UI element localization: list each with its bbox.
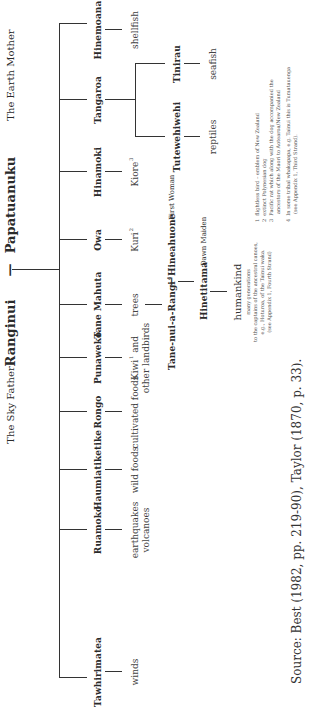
humankind-label: humankind: [233, 264, 243, 321]
domain-winds: winds: [130, 659, 140, 686]
domain-kuri: Kuri2: [130, 228, 140, 252]
branch-line: [59, 239, 87, 240]
domain-link-line: [105, 304, 122, 305]
domain-earthquakes: earthquakes: [130, 502, 140, 559]
domain-wild-foods: wild foods: [130, 447, 140, 494]
domain-kiore: Kiore3: [130, 158, 140, 187]
branch-line: [59, 304, 87, 305]
humankind-drop-line: [210, 291, 227, 292]
children-spine-line: [59, 23, 60, 678]
earth-mother-epithet: The Earth Mother: [6, 29, 16, 120]
branch-line: [59, 99, 87, 100]
domain-volcanoes: volcanoes: [141, 508, 151, 553]
child-punaweko: Punaweko: [94, 332, 103, 384]
tane-nui-a-rangi-label: Tane-nui-a-Rangi4: [168, 277, 177, 370]
source-citation: Source: Best (1982, pp. 219-90), Taylor …: [291, 359, 303, 684]
domain-link-line: [105, 469, 122, 470]
domain-link-line: [105, 529, 122, 530]
tinirau-branch-line: [135, 63, 165, 64]
child-rongo: Rongo: [94, 396, 103, 429]
footnote-4: 4 In some tribal whakapapa, e.g. Tainui …: [285, 67, 292, 222]
tane-union-connector: —: [167, 277, 176, 286]
tutewehiwehi-branch-line: [135, 136, 165, 137]
footnote-3: 3 Pacific rat which along with the dog a…: [268, 79, 275, 222]
descendants-line-3: e.g., Hoturoa, of the Tainui waka.: [259, 250, 265, 335]
tangaroa-drop-line: [105, 99, 135, 100]
domain-seafish: seafish: [208, 48, 218, 80]
branch-line: [59, 469, 87, 470]
domain-link-line: [105, 357, 122, 358]
domain-link-line: [105, 29, 122, 30]
sky-father-epithet: The Sky Father: [6, 366, 16, 443]
dawn-maiden-epithet: Dawn Maiden: [201, 217, 208, 266]
domain-other-landbirds: other landbirds: [141, 323, 151, 393]
parents-connector: —: [3, 264, 16, 277]
child-owa: Owa: [94, 229, 103, 251]
footnote-1: 1 flightless bird – emblem of New Zealan…: [254, 113, 261, 222]
domain-trees: trees: [130, 293, 140, 316]
child-tane-mahuta: Tane Mahuta: [94, 271, 103, 338]
domain-cultivated-foods: cultivated foods: [130, 376, 140, 449]
child-haumiatiketike: Haumiatiketike: [94, 430, 103, 510]
domain-link-line: [184, 136, 200, 137]
hinetitama-label: Hinetitama: [200, 262, 209, 320]
branch-line: [59, 677, 87, 678]
tangaroa-bracket-line: [135, 64, 136, 137]
first-woman-epithet: First Woman: [169, 175, 176, 220]
descendants-line-1: many generations: [245, 269, 251, 314]
domain-link-line: [105, 239, 122, 240]
domain-shellfish: shellfish: [130, 11, 140, 49]
domain-reptiles: reptiles: [208, 120, 218, 155]
branch-line: [59, 529, 87, 530]
child-ruamoko: Ruamoko: [94, 506, 103, 554]
footnote-3-cont: ancestors of the Maori to Aotearoa/New Z…: [275, 90, 282, 214]
domain-link-line: [105, 671, 122, 672]
union-drop-line: [12, 269, 60, 270]
domain-link-line: [105, 411, 122, 412]
ranginui-label: Ranginui: [4, 300, 17, 367]
branch-line: [59, 357, 87, 358]
descendants-line-2: to the captains of the ancestral canoes,: [252, 242, 258, 342]
domain-link-line: [184, 63, 200, 64]
child-tutewehiwehi: Tutewehiwehi: [173, 102, 182, 172]
footnote-4-cont: (see Appendix 1, Third Strand).: [292, 134, 299, 214]
hinetitama-drop-line: [178, 281, 194, 282]
domain-kiwi: Kiwi1 and: [130, 336, 140, 380]
child-tinirau: Tinirau: [173, 45, 182, 83]
branch-line: [59, 171, 87, 172]
branch-line: [59, 23, 87, 24]
child-hinemoana: Hinemoana: [94, 1, 103, 60]
tane-descent-line: [145, 304, 162, 305]
papatuanuku-label: Papatuanuku: [4, 157, 17, 254]
descendants-line-4: (see Appendix 1, Fourth Strand): [266, 251, 272, 333]
child-tangaroa: Tangaroa: [94, 76, 103, 124]
branch-line: [59, 411, 87, 412]
child-hinamoki: Hinamoki: [94, 147, 103, 197]
child-tawhirimatea: Tawhirimatea: [94, 637, 103, 707]
domain-link-line: [105, 171, 122, 172]
hineahuone-label: Hineahuone: [168, 214, 177, 276]
footnote-2: 2 extinct Polynesian dog: [261, 158, 268, 222]
